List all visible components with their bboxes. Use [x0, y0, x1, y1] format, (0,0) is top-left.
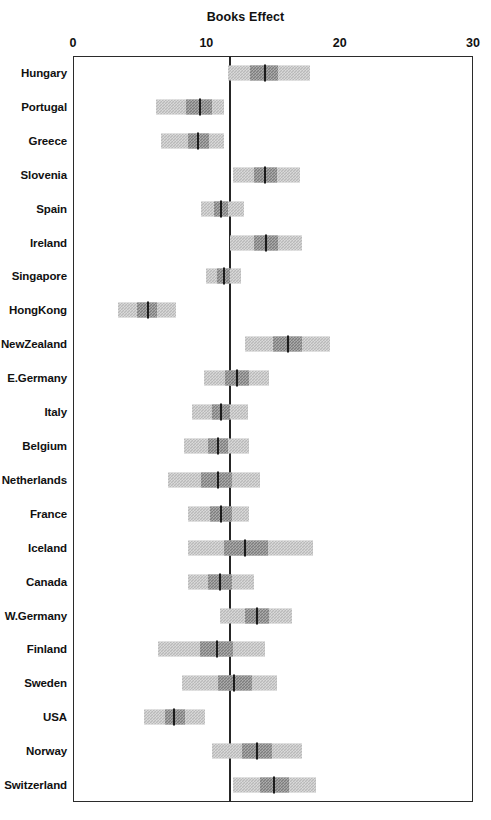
point-estimate-mark: [217, 437, 219, 454]
interval-bar: [0, 65, 491, 80]
interval-bar: [0, 99, 491, 114]
x-tick-label-30: 30: [466, 36, 480, 50]
x-tick-label-0: 0: [70, 36, 77, 50]
interval-bar: [0, 506, 491, 521]
point-estimate-mark: [220, 505, 222, 522]
interval-bar: [0, 574, 491, 589]
point-estimate-mark: [197, 132, 199, 149]
x-tick-label-10: 10: [199, 36, 213, 50]
point-estimate-mark: [216, 641, 218, 658]
interval-bar: [0, 235, 491, 250]
interval-bar: [0, 642, 491, 657]
interval-bar: [0, 540, 491, 555]
point-estimate-mark: [264, 166, 266, 183]
interval-bar: [0, 778, 491, 793]
point-estimate-mark: [199, 98, 201, 115]
interval-bar: [0, 438, 491, 453]
x-tick-label-20: 20: [333, 36, 347, 50]
inner-interval-band: [201, 472, 232, 487]
interval-bar: [0, 371, 491, 386]
point-estimate-mark: [147, 302, 149, 319]
point-estimate-mark: [287, 336, 289, 353]
interval-bar: [0, 710, 491, 725]
point-estimate-mark: [244, 539, 246, 556]
interval-bar: [0, 676, 491, 691]
point-estimate-mark: [219, 573, 221, 590]
interval-bar: [0, 405, 491, 420]
interval-bar: [0, 133, 491, 148]
interval-bar: [0, 472, 491, 487]
interval-bar: [0, 744, 491, 759]
interval-bar: [0, 337, 491, 352]
interval-bar: [0, 167, 491, 182]
books-effect-chart: Books Effect 0102030 HungaryPortugalGree…: [0, 0, 491, 820]
point-estimate-mark: [220, 404, 222, 421]
point-estimate-mark: [223, 268, 225, 285]
point-estimate-mark: [256, 743, 258, 760]
point-estimate-mark: [173, 709, 175, 726]
point-estimate-mark: [265, 234, 267, 251]
point-estimate-mark: [220, 200, 222, 217]
chart-title: Books Effect: [0, 10, 491, 24]
interval-bar: [0, 269, 491, 284]
point-estimate-mark: [217, 471, 219, 488]
point-estimate-mark: [273, 777, 275, 794]
interval-bar: [0, 201, 491, 216]
point-estimate-mark: [236, 370, 238, 387]
point-estimate-mark: [233, 675, 235, 692]
interval-bar: [0, 303, 491, 318]
interval-bar: [0, 608, 491, 623]
point-estimate-mark: [256, 607, 258, 624]
point-estimate-mark: [264, 64, 266, 81]
